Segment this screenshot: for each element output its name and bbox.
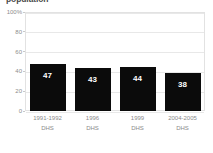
bar-series: 47434438 [25, 12, 205, 111]
x-axis-tick-survey: DHS [160, 123, 205, 133]
bar: 38 [165, 73, 201, 111]
bar-slot: 43 [75, 12, 111, 111]
x-axis: 1991-1992DHS1996DHS1999DHS2004-2005DHS [25, 113, 205, 145]
bar: 47 [30, 64, 66, 111]
bar: 44 [120, 67, 156, 111]
y-axis-tick-label: 60 [0, 49, 22, 55]
x-axis-tick-survey: DHS [25, 123, 70, 133]
bar-slot: 44 [120, 12, 156, 111]
x-axis-tick-year: 1991-1992 [33, 115, 62, 121]
chart-title: population [6, 0, 206, 5]
bar-value-label: 38 [165, 80, 201, 89]
x-axis-tick-label: 1996DHS [70, 113, 115, 133]
x-axis-tick-year: 2004-2005 [168, 115, 197, 121]
x-axis-tick-survey: DHS [115, 123, 160, 133]
y-axis-tick-label: 40 [0, 68, 22, 74]
x-axis-tick-label: 1999DHS [115, 113, 160, 133]
bar-slot: 47 [30, 12, 66, 111]
y-axis-tick-label: 0 [0, 108, 22, 114]
y-axis-tick-label: 80 [0, 29, 22, 35]
bar-chart-figure: population 020406080100% 47434438 1991-1… [0, 0, 213, 153]
bar-slot: 38 [165, 12, 201, 111]
x-axis-tick-year: 1996 [86, 115, 99, 121]
x-axis-tick-label: 1991-1992DHS [25, 113, 70, 133]
bar-value-label: 47 [30, 71, 66, 80]
x-axis-tick-survey: DHS [70, 123, 115, 133]
y-axis: 020406080100% [0, 12, 25, 111]
bar: 43 [75, 68, 111, 111]
bar-value-label: 43 [75, 75, 111, 84]
bar-value-label: 44 [120, 74, 156, 83]
y-axis-tick-label: 20 [0, 88, 22, 94]
x-axis-tick-year: 1999 [131, 115, 144, 121]
y-axis-tick-label: 100% [0, 9, 22, 15]
x-axis-tick-label: 2004-2005DHS [160, 113, 205, 133]
